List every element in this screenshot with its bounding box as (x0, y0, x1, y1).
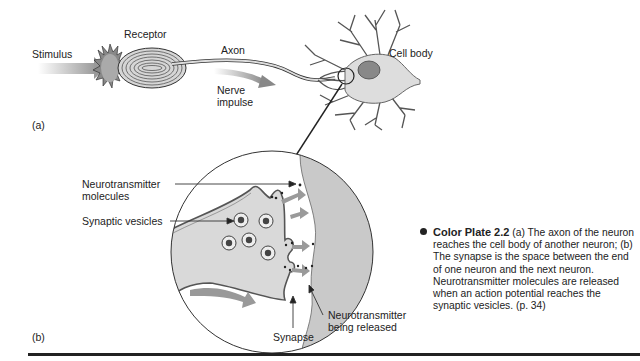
panel-a-marker: (a) (32, 119, 45, 131)
caption-title: Color Plate 2.2 (433, 226, 509, 238)
bullet-icon (420, 228, 427, 235)
label-nt-molecules-line1: Neurotransmitter (82, 178, 160, 190)
panel-b-marker: (b) (32, 331, 45, 343)
receptor-icon (93, 44, 186, 88)
divider-rule (28, 353, 640, 356)
label-axon: Axon (221, 44, 245, 56)
label-synaptic-vesicles: Synaptic vesicles (82, 215, 163, 227)
figure-caption: Color Plate 2.2 (a) The axon of the neur… (433, 226, 638, 312)
label-cell-body: Cell body (389, 47, 433, 59)
label-nt-released-line1: Neurotransmitter (328, 309, 406, 321)
label-synapse: Synapse (273, 331, 314, 343)
caption-text: (a) The axon of the neuron reaches the c… (433, 227, 634, 311)
label-nerve-impulse-line1: Nerve (217, 84, 245, 96)
label-nt-molecules-line2: molecules (82, 190, 129, 202)
label-nt-released-line2: being released (328, 321, 397, 333)
label-nerve-impulse-line2: impulse (217, 96, 253, 108)
cell-body-icon (305, 10, 420, 130)
label-receptor: Receptor (124, 28, 167, 40)
label-stimulus: Stimulus (32, 48, 72, 60)
